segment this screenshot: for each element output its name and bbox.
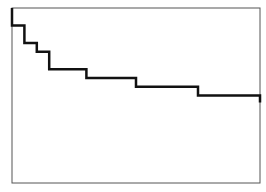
step-line — [12, 8, 260, 103]
step-chart — [0, 0, 266, 192]
